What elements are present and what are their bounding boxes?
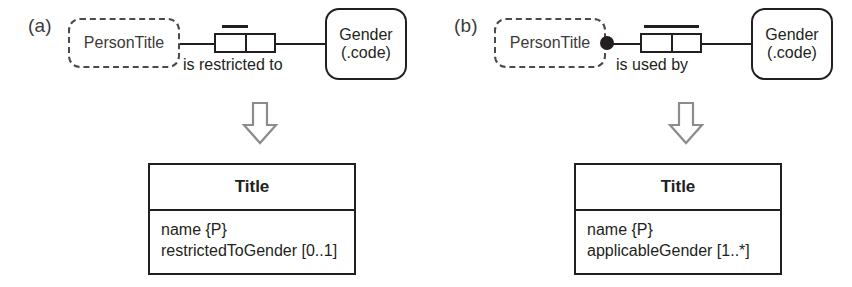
role-connector-right-b xyxy=(702,43,751,45)
role-connector-right-a xyxy=(276,43,325,45)
role-box-1 xyxy=(642,35,671,51)
object-type-gender-b: Gender (.code) xyxy=(751,8,833,80)
predicate-reading-label-a: is restricted to xyxy=(183,56,283,74)
role-box-1 xyxy=(216,35,245,51)
uml-attribute-compartment-a: name {P} restrictedToGender [0..1] xyxy=(150,211,354,273)
object-type-reference-mode: (.code) xyxy=(341,44,391,62)
object-type-label: Gender xyxy=(339,26,392,44)
role-box-2 xyxy=(245,35,274,51)
uniqueness-constraint-bar-b xyxy=(644,25,699,28)
uml-attribute-compartment-b: name {P} applicableGender [1..*] xyxy=(576,211,780,273)
uml-attribute: applicableGender [1..*] xyxy=(587,241,780,262)
orm-fact-type-a: PersonTitle is restricted to Gender (.co… xyxy=(0,0,426,100)
orm-fact-type-b: PersonTitle is used by Gender (.code) xyxy=(426,0,852,100)
object-type-persontitle-a: PersonTitle xyxy=(68,18,180,68)
object-type-gender-a: Gender (.code) xyxy=(325,8,407,80)
object-type-persontitle-b: PersonTitle xyxy=(494,18,606,68)
object-type-label: PersonTitle xyxy=(84,34,164,52)
predicate-role-boxes-b xyxy=(640,33,702,53)
predicate-reading-label-b: is used by xyxy=(616,56,688,74)
panel-a: (a) PersonTitle is restricted to Gender … xyxy=(0,0,426,287)
uml-attribute: name {P} xyxy=(587,220,780,241)
role-connector-left-b xyxy=(606,43,640,45)
uml-class-box-b: Title name {P} applicableGender [1..*] xyxy=(574,163,782,275)
uml-class-header-a: Title xyxy=(150,165,354,211)
uml-class-box-a: Title name {P} restrictedToGender [0..1] xyxy=(148,163,356,275)
uml-class-name: Title xyxy=(661,177,696,197)
object-type-reference-mode: (.code) xyxy=(767,44,817,62)
uml-class-header-b: Title xyxy=(576,165,780,211)
predicate-role-boxes-a xyxy=(214,33,276,53)
uml-class-name: Title xyxy=(235,177,270,197)
object-type-label: Gender xyxy=(765,26,818,44)
role-connector-left-a xyxy=(180,43,214,45)
object-type-label: PersonTitle xyxy=(510,34,590,52)
uml-attribute: name {P} xyxy=(161,220,354,241)
role-box-2 xyxy=(671,35,700,51)
uml-attribute: restrictedToGender [0..1] xyxy=(161,241,354,262)
uniqueness-constraint-bar-a xyxy=(222,25,248,28)
orm-uml-mapping-figure: (a) PersonTitle is restricted to Gender … xyxy=(0,0,852,287)
down-arrow-icon-a xyxy=(238,101,282,145)
down-arrow-icon-b xyxy=(664,101,708,145)
panel-b: (b) PersonTitle is used by Gender (.code… xyxy=(426,0,852,287)
